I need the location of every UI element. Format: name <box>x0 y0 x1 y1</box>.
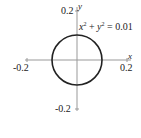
x-tick-label: -0.2 <box>13 62 29 73</box>
x-tick-label: 0.2 <box>120 62 133 73</box>
equation-annotation: x2 + y2 = 0.01 <box>78 21 133 32</box>
y-axis-label: y <box>77 1 82 11</box>
y-tick-label: -0.2 <box>55 103 71 114</box>
circle-plot: x y -0.2 0.2 0.2 -0.2 x2 + y2 = 0.01 <box>0 0 141 138</box>
y-tick-label: 0.2 <box>61 5 74 16</box>
x-axis-label: x <box>127 51 132 61</box>
